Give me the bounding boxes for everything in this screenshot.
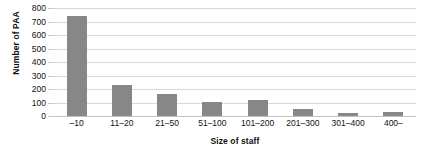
y-tick-label: 600 (16, 31, 46, 40)
plot-area (54, 8, 416, 116)
y-tick-label: 500 (16, 44, 46, 53)
x-tick-label: 101–200 (235, 118, 280, 128)
y-tick-label: 800 (16, 4, 46, 13)
bar (157, 94, 177, 116)
bar-slot (54, 8, 99, 116)
y-tick-label: 200 (16, 85, 46, 94)
y-tick-label: 100 (16, 98, 46, 107)
y-axis-tick-labels: 0100200300400500600700800 (16, 8, 46, 116)
x-axis-tick-labels: –1011–2021–5051–100101–200201–300301–400… (54, 118, 416, 128)
bar-slot (326, 8, 371, 116)
bar (293, 109, 313, 116)
x-tick-label: 11–20 (99, 118, 144, 128)
y-tick-label: 700 (16, 17, 46, 26)
x-tick-label: 201–300 (280, 118, 325, 128)
x-tick-label: 301–400 (326, 118, 371, 128)
bar (202, 102, 222, 116)
bar (383, 112, 403, 116)
bar (67, 16, 87, 116)
bar-slot (145, 8, 190, 116)
x-tick-label: 400– (371, 118, 416, 128)
bar-slot (99, 8, 144, 116)
x-axis-title: Size of staff (54, 136, 416, 146)
bar (112, 85, 132, 116)
bar-series (54, 8, 416, 116)
x-tick-label: 51–100 (190, 118, 235, 128)
bar-slot (235, 8, 280, 116)
y-tick-label: 0 (16, 112, 46, 121)
y-tick-label: 400 (16, 58, 46, 67)
x-tick-label: –10 (54, 118, 99, 128)
bar (338, 113, 358, 116)
bar-slot (280, 8, 325, 116)
bar (248, 100, 268, 116)
gridline (54, 116, 416, 117)
y-tick-label: 300 (16, 71, 46, 80)
x-tick-label: 21–50 (145, 118, 190, 128)
bar-slot (190, 8, 235, 116)
bar-slot (371, 8, 416, 116)
bar-chart: Number of PAA 0100200300400500600700800 … (0, 0, 430, 155)
